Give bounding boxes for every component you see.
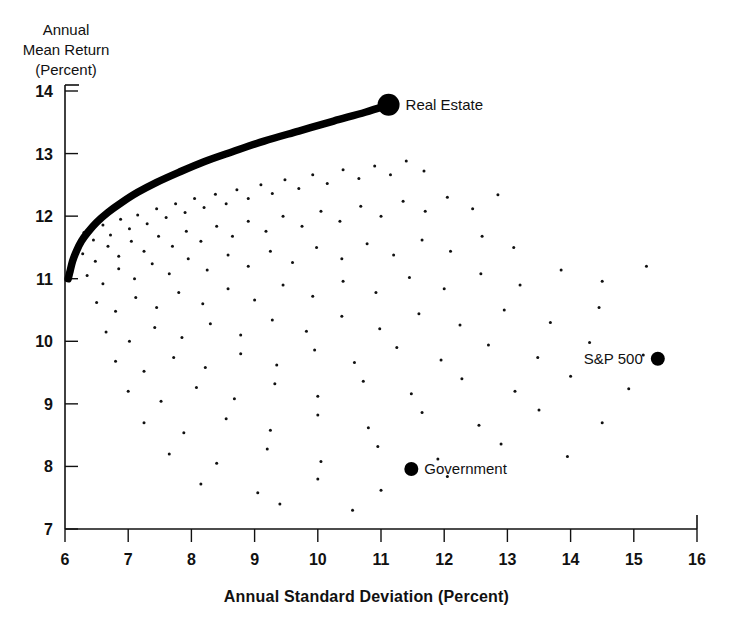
cloud-dot (487, 344, 490, 347)
cloud-dot (264, 230, 267, 233)
x-tick-label: 7 (124, 551, 133, 568)
cloud-dot (227, 287, 230, 290)
cloud-dot (130, 240, 133, 243)
cloud-dot (193, 197, 196, 200)
y-tick-label: 14 (35, 83, 53, 100)
cloud-dot (269, 429, 272, 432)
y-tick-label: 10 (35, 333, 53, 350)
portfolio-cloud-dots (81, 160, 648, 512)
x-tick-label: 13 (499, 551, 517, 568)
cloud-dot (253, 298, 256, 301)
cloud-dot (278, 502, 281, 505)
cloud-dot (645, 265, 648, 268)
cloud-dot (460, 377, 463, 380)
cloud-dot (185, 230, 188, 233)
cloud-dot (271, 319, 274, 322)
cloud-dot (165, 216, 168, 219)
cloud-dot (392, 253, 395, 256)
cloud-dot (389, 173, 392, 176)
cloud-dot (374, 291, 377, 294)
cloud-dot (627, 387, 630, 390)
cloud-dot (119, 218, 122, 221)
chart-figure: Annual Mean Return (Percent) 78910111213… (0, 0, 733, 630)
cloud-dot (177, 291, 180, 294)
cloud-dot (195, 386, 198, 389)
cloud-dot (199, 482, 202, 485)
cloud-dot (503, 309, 506, 312)
y-tick-label: 8 (44, 458, 53, 475)
cloud-dot (172, 356, 175, 359)
cloud-dot (168, 272, 171, 275)
cloud-dot (402, 200, 405, 203)
cloud-dot (203, 206, 206, 209)
cloud-dot (362, 380, 365, 383)
cloud-dot (316, 395, 319, 398)
cloud-dot (380, 215, 383, 218)
cloud-dot (359, 205, 362, 208)
cloud-dot (471, 207, 474, 210)
cloud-dot (326, 182, 329, 185)
data-point-marker (404, 462, 418, 476)
cloud-dot (446, 196, 449, 199)
cloud-dot (174, 202, 177, 205)
cloud-dot (235, 188, 238, 191)
data-point-marker (378, 94, 400, 116)
cloud-dot (282, 215, 285, 218)
x-tick-label: 14 (562, 551, 580, 568)
cloud-dot (601, 421, 604, 424)
cloud-dot (233, 397, 236, 400)
cloud-dot (247, 220, 250, 223)
cloud-dot (114, 360, 117, 363)
y-tick-label: 7 (44, 521, 53, 538)
cloud-dot (538, 409, 541, 412)
cloud-dot (201, 302, 204, 305)
cloud-dot (512, 246, 515, 249)
cloud-dot (560, 268, 563, 271)
cloud-dot (549, 321, 552, 324)
cloud-dot (143, 421, 146, 424)
cloud-dot (160, 400, 163, 403)
cloud-dot (351, 509, 354, 512)
cloud-dot (271, 192, 274, 195)
cloud-dot (357, 177, 360, 180)
y-tick-label: 11 (36, 271, 53, 288)
x-tick-marks (65, 529, 697, 542)
cloud-dot (421, 238, 424, 241)
cloud-dot (297, 187, 300, 190)
cloud-dot (311, 173, 314, 176)
cloud-dot (316, 414, 319, 417)
cloud-dot (128, 227, 131, 230)
cloud-dot (424, 210, 427, 213)
cloud-dot (180, 336, 183, 339)
cloud-dot (155, 207, 158, 210)
cloud-dot (247, 197, 250, 200)
cloud-dot (422, 170, 425, 173)
cloud-dot (81, 252, 84, 255)
cloud-dot (225, 202, 228, 205)
cloud-dot (500, 442, 503, 445)
cloud-dot (199, 240, 202, 243)
data-point-label: S&P 500 (584, 350, 643, 367)
efficient-frontier-curve (68, 105, 388, 279)
cloud-dot (94, 260, 97, 263)
cloud-dot (342, 168, 345, 171)
cloud-dot (239, 352, 242, 355)
cloud-dot (282, 283, 285, 286)
cloud-dot (315, 246, 318, 249)
cloud-dot (275, 364, 278, 367)
cloud-dot (151, 262, 154, 265)
cloud-dot (569, 375, 572, 378)
cloud-dot (171, 245, 174, 248)
cloud-dot (168, 452, 171, 455)
cloud-dot (316, 477, 319, 480)
cloud-dot (153, 326, 156, 329)
cloud-dot (479, 272, 482, 275)
cloud-dot (340, 315, 343, 318)
cloud-dot (225, 417, 228, 420)
cloud-dot (133, 277, 136, 280)
cloud-dot (143, 250, 146, 253)
x-tick-label: 8 (187, 551, 196, 568)
x-axis-title: Annual Standard Deviation (Percent) (0, 588, 733, 606)
cloud-dot (459, 324, 462, 327)
frontier-path (68, 105, 388, 279)
